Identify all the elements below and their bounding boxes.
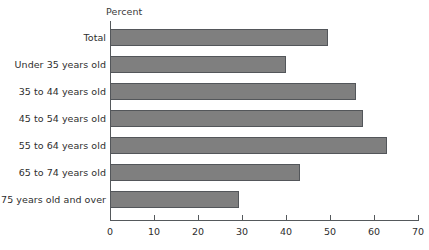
category-label: 65 to 74 years old (19, 164, 106, 181)
bar (110, 191, 239, 208)
category-label: 45 to 54 years old (19, 110, 106, 127)
category-label: Under 35 years old (15, 56, 106, 73)
x-axis-tick (242, 215, 243, 220)
bar (110, 110, 363, 127)
x-axis-tick (154, 215, 155, 220)
x-axis-tick (418, 215, 419, 220)
category-label-row: 55 to 64 years old (0, 137, 106, 154)
bar (110, 83, 356, 100)
x-axis-tick (110, 215, 111, 220)
category-label-row: Total (0, 29, 106, 46)
x-axis-tick (286, 215, 287, 220)
x-axis-tick-label: 50 (324, 226, 336, 237)
x-axis-tick-label: 30 (236, 226, 248, 237)
x-axis-tick-label: 0 (107, 226, 113, 237)
x-axis-tick-label: 70 (412, 226, 424, 237)
bar (110, 56, 286, 73)
x-axis-line (110, 220, 419, 221)
category-label-row: 35 to 44 years old (0, 83, 106, 100)
percent-axis-title: Percent (106, 6, 142, 17)
category-label-row: 65 to 74 years old (0, 164, 106, 181)
bar-chart: Percent TotalUnder 35 years old35 to 44 … (0, 0, 429, 250)
x-axis-tick-label: 20 (192, 226, 204, 237)
category-label-row: 45 to 54 years old (0, 110, 106, 127)
x-axis-tick (374, 215, 375, 220)
category-label-row: Under 35 years old (0, 56, 106, 73)
category-label-row: 75 years old and over (0, 191, 106, 208)
bar (110, 164, 300, 181)
x-axis-tick (198, 215, 199, 220)
category-label: 55 to 64 years old (19, 137, 106, 154)
category-label: 75 years old and over (1, 191, 106, 208)
x-axis-tick-label: 60 (368, 226, 380, 237)
bar (110, 29, 328, 46)
x-axis-tick-label: 10 (148, 226, 160, 237)
category-label: 35 to 44 years old (19, 83, 106, 100)
bar (110, 137, 387, 154)
category-label: Total (84, 29, 106, 46)
x-axis-tick (330, 215, 331, 220)
x-axis-tick-label: 40 (280, 226, 292, 237)
